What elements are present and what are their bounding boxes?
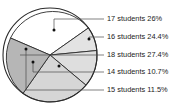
pie-point-18-students bbox=[58, 65, 61, 68]
pie-label-18-students: 18 students 27.4% bbox=[107, 50, 169, 59]
pie-labels: 17 students 26% 16 students 24.4% 18 stu… bbox=[107, 14, 169, 94]
pie-label-15-students: 15 students 11.5% bbox=[107, 85, 168, 94]
pie-label-14-students: 14 students 10.7% bbox=[107, 67, 169, 76]
pie-chart-figure: 17 students 26% 16 students 24.4% 18 stu… bbox=[0, 0, 182, 108]
pie-point-17-students bbox=[53, 29, 56, 32]
pie-label-17-students: 17 students 26% bbox=[107, 14, 162, 23]
pie-point-15-students bbox=[25, 48, 28, 51]
pie-chart-svg: 17 students 26% 16 students 24.4% 18 stu… bbox=[0, 0, 182, 108]
pie-label-16-students: 16 students 24.4% bbox=[107, 32, 169, 41]
pie-point-14-students bbox=[32, 61, 35, 64]
pie-point-16-students bbox=[88, 38, 91, 41]
